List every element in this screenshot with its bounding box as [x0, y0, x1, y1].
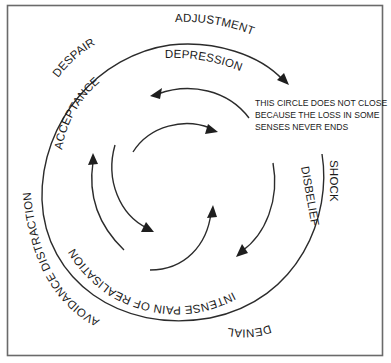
middle-left-arrowhead-icon [88, 153, 98, 165]
label-intense-pain-of-realisation: INTENSE PAIN OF REALISATION [66, 247, 238, 317]
inner-left-arrowhead-icon [141, 222, 154, 232]
middle-right-arrowhead-icon [236, 244, 248, 257]
inner-bottom-arrowhead-icon [207, 205, 217, 218]
label-despair: DESPAIR [50, 36, 97, 79]
middle-ring-left-arc [92, 162, 124, 250]
svg-text:SENSES NEVER ENDS: SENSES NEVER ENDS [255, 122, 348, 132]
label-acceptance: ACCEPTANCE [52, 74, 101, 150]
grief-cycle-diagram: ADJUSTMENT DESPAIR AVOIDANCE DISTRACTION… [0, 0, 391, 363]
middle-ring-top-arc [158, 89, 249, 118]
middle-top-arrowhead-icon [150, 88, 162, 99]
inner-top-arrowhead-icon [205, 124, 218, 134]
inner-ring-left-arc [112, 145, 147, 228]
svg-text:THIS CIRCLE DOES NOT CLOSE: THIS CIRCLE DOES NOT CLOSE [255, 98, 387, 108]
svg-text:BECAUSE THE LOSS IN SOME: BECAUSE THE LOSS IN SOME [255, 110, 380, 120]
label-depression: DEPRESSION [165, 48, 244, 73]
circle-note: THIS CIRCLE DOES NOT CLOSE BECAUSE THE L… [255, 98, 387, 132]
label-disbelief: DISBELIEF [299, 165, 321, 227]
inner-ring-bottom-arc [150, 213, 211, 270]
middle-ring-right-arc [242, 163, 275, 251]
label-denial: DENIAL [226, 323, 273, 339]
inner-ring-top-arc [133, 124, 210, 152]
label-adjustment: ADJUSTMENT [175, 12, 256, 37]
label-shock: SHOCK [328, 160, 340, 202]
